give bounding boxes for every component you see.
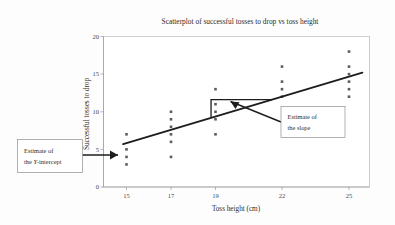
y-tick-label: 10	[92, 108, 99, 115]
data-point	[281, 80, 284, 83]
data-point	[170, 133, 173, 136]
x-tick-label: 25	[346, 192, 353, 199]
data-point	[170, 141, 173, 144]
annotation-y-intercept: Estimate of the Y-intercept	[18, 140, 83, 173]
data-point	[214, 110, 217, 113]
data-point	[281, 88, 284, 91]
data-point	[170, 126, 173, 129]
annotation-y-intercept-suffix: -intercept	[37, 158, 62, 165]
data-point	[170, 110, 173, 113]
data-point	[214, 103, 217, 106]
y-axis-label: Successful tosses to drop	[83, 78, 91, 150]
annotation-y-intercept-box	[18, 140, 83, 173]
annotation-y-intercept-prefix: the	[24, 158, 33, 165]
data-point	[125, 133, 128, 136]
chart-title: Scatterplot of successful tosses to drop…	[162, 17, 320, 26]
data-point	[170, 118, 173, 121]
data-point	[348, 88, 351, 91]
data-point	[125, 156, 128, 159]
data-point	[281, 65, 284, 68]
annotation-y-intercept-line2: the Y-intercept	[24, 158, 62, 165]
y-tick-label: 15	[92, 70, 99, 77]
data-point	[348, 50, 351, 53]
data-point	[214, 88, 217, 91]
x-axis-label: Toss height (cm)	[212, 205, 261, 213]
annotation-y-intercept-line1: Estimate of	[24, 147, 54, 154]
y-tick-label: 20	[92, 33, 99, 40]
x-tick-label: 22	[279, 192, 286, 199]
data-point	[348, 65, 351, 68]
data-point	[214, 118, 217, 121]
chart-canvas: Scatterplot of successful tosses to drop…	[0, 0, 395, 225]
x-tick-label: 19	[212, 192, 219, 199]
data-point	[125, 163, 128, 166]
data-point	[348, 73, 351, 76]
annotation-slope-line2: the slope	[288, 124, 311, 131]
x-tick-label: 15	[123, 192, 130, 199]
data-point	[348, 80, 351, 83]
annotation-slope: Estimate of the slope	[281, 107, 345, 138]
annotation-slope-box	[281, 107, 345, 138]
data-point	[170, 156, 173, 159]
data-point	[348, 95, 351, 98]
data-point	[125, 148, 128, 151]
annotation-slope-line1: Estimate of	[288, 113, 318, 120]
data-point	[214, 133, 217, 136]
scatterplot-figure: Scatterplot of successful tosses to drop…	[0, 0, 395, 225]
x-tick-label: 17	[168, 192, 175, 199]
